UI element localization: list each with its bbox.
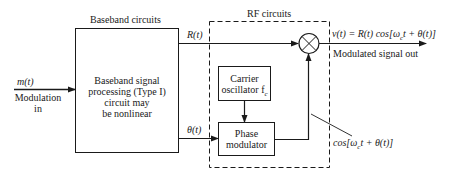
carrier-annotation-part-a: cos[ω (333, 137, 357, 148)
carrier-oscillator-line-1: Carrier (219, 73, 270, 84)
baseband-processor-line-2: processing (Type I) (76, 86, 178, 97)
rf-circuits-label: RF circuits (247, 8, 291, 19)
phase-modulated-carrier-path (275, 54, 309, 140)
input-signal-label: Modulation in (10, 92, 66, 114)
carrier-annotation-part-b: t + θ(t)] (360, 137, 393, 148)
carrier-annotation: cos[ωct + θ(t)] (333, 137, 393, 153)
carrier-oscillator-line-2: oscillator fc (219, 84, 270, 100)
phase-modulator-line-2: modulator (219, 139, 274, 150)
carrier-annotation-leader (311, 114, 352, 136)
phase-signal-symbol: θ(t) (187, 124, 201, 135)
baseband-processor-line-3: circuit may (76, 97, 178, 108)
baseband-processor-line-1: Baseband signal (76, 75, 178, 86)
output-equation-part-b: t + θ(t)] (403, 28, 436, 39)
baseband-processor-line-4: be nonlinear (76, 108, 178, 119)
carrier-oscillator-line-2-text: oscillator f (221, 84, 264, 95)
output-signal-label: Modulated signal out (333, 48, 418, 59)
output-equation-part-a: v(t) = R(t) cos[ω (332, 28, 400, 39)
output-equation: v(t) = R(t) cos[ωct + θ(t)] (332, 28, 436, 44)
phase-modulator-text: Phase modulator (219, 128, 274, 150)
carrier-frequency-subscript: c (264, 90, 267, 98)
phase-modulator-line-1: Phase (219, 128, 274, 139)
input-signal-symbol: m(t) (17, 76, 34, 87)
carrier-oscillator-text: Carrier oscillator fc (219, 73, 270, 100)
input-label-line-2: in (10, 103, 66, 114)
baseband-processor-text: Baseband signal processing (Type I) circ… (76, 75, 178, 119)
amplitude-signal-symbol: R(t) (187, 29, 203, 40)
input-label-line-1: Modulation (10, 92, 66, 103)
baseband-circuits-label: Baseband circuits (90, 14, 161, 25)
multiplier-icon (299, 34, 319, 54)
